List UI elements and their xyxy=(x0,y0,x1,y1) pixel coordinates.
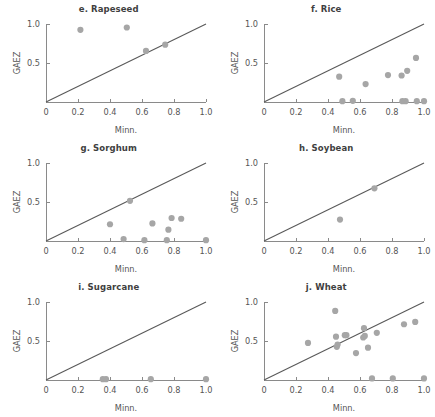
data-point xyxy=(148,376,154,382)
x-axis-tick-label: 1.0 xyxy=(417,385,430,395)
y-axis-tick-label: 1.0 xyxy=(27,19,40,29)
x-axis-tick-label: 0.2 xyxy=(289,107,302,117)
x-axis-tick-label: 0.6 xyxy=(353,385,366,395)
data-point xyxy=(339,98,345,104)
data-point xyxy=(420,98,426,104)
y-axis-tick-label: 0.5 xyxy=(244,197,257,207)
data-point xyxy=(336,216,342,222)
x-axis-title: Minn. xyxy=(332,264,354,274)
x-axis-tick-label: 0.4 xyxy=(321,107,334,117)
y-axis-title: GAEZ xyxy=(230,51,240,74)
scatter-plot: 00.20.40.60.81.00.51.0GAEZMinn. xyxy=(0,0,218,139)
data-point xyxy=(121,236,127,242)
data-point xyxy=(203,237,209,243)
data-point xyxy=(352,350,358,356)
x-axis-tick-label: 1.0 xyxy=(199,246,212,256)
x-axis-tick-label: 1.0 xyxy=(199,385,212,395)
data-point xyxy=(360,325,366,331)
data-point xyxy=(143,48,149,54)
data-point xyxy=(404,68,410,74)
data-point xyxy=(364,345,370,351)
x-axis-tick-label: 0 xyxy=(261,107,266,117)
data-point xyxy=(361,333,367,339)
data-point xyxy=(304,340,310,346)
y-axis-tick-label: 1.0 xyxy=(244,19,257,29)
x-axis-tick-label: 0.8 xyxy=(167,385,180,395)
y-axis-tick-label: 1.0 xyxy=(244,297,257,307)
x-axis-tick-label: 0.8 xyxy=(385,107,398,117)
x-axis-tick-label: 1.0 xyxy=(417,246,430,256)
data-point xyxy=(343,332,349,338)
data-point xyxy=(412,319,418,325)
x-axis-tick-label: 0.4 xyxy=(103,107,116,117)
scatter-plot: 00.20.40.60.81.00.51.0GAEZMinn. xyxy=(218,0,435,139)
data-point xyxy=(334,341,340,347)
chart-panel: f. Rice00.20.40.60.81.00.51.0GAEZMinn. xyxy=(218,0,435,139)
data-point xyxy=(371,185,377,191)
data-point xyxy=(384,72,390,78)
x-axis-tick-label: 0.2 xyxy=(289,385,302,395)
y-axis-title: GAEZ xyxy=(230,329,240,352)
x-axis-title: Minn. xyxy=(115,264,137,274)
data-point xyxy=(413,98,419,104)
scatter-plot: 00.20.40.60.81.00.51.0GAEZMinn. xyxy=(0,278,218,417)
x-axis-tick-label: 0.8 xyxy=(385,246,398,256)
chart-panel: j. Wheat00.20.40.60.81.00.51.0GAEZMinn. xyxy=(218,278,435,417)
x-axis-tick-label: 0.4 xyxy=(321,385,334,395)
data-point xyxy=(412,55,418,61)
scatter-plot: 00.20.40.60.81.00.51.0GAEZMinn. xyxy=(218,139,435,278)
chart-panel: e. Rapeseed00.20.40.60.81.00.51.0GAEZMin… xyxy=(0,0,218,139)
data-point xyxy=(178,216,184,222)
identity-reference-line xyxy=(264,302,424,380)
scatter-panel-grid: e. Rapeseed00.20.40.60.81.00.51.0GAEZMin… xyxy=(0,0,435,417)
y-axis-title: GAEZ xyxy=(230,190,240,213)
identity-reference-line xyxy=(46,24,206,102)
data-point xyxy=(164,237,170,243)
data-point xyxy=(400,321,406,327)
x-axis-tick-label: 1.0 xyxy=(417,107,430,117)
x-axis-tick-label: 0.8 xyxy=(167,246,180,256)
data-point xyxy=(165,227,171,233)
x-axis-tick-label: 0.4 xyxy=(103,385,116,395)
data-point xyxy=(332,334,338,340)
data-point xyxy=(389,375,395,381)
scatter-plot: 00.20.40.60.81.00.51.0GAEZMinn. xyxy=(218,278,435,417)
x-axis-tick-label: 1.0 xyxy=(199,107,212,117)
x-axis-tick-label: 0.6 xyxy=(353,107,366,117)
data-point xyxy=(336,74,342,80)
x-axis-tick-label: 0.4 xyxy=(321,246,334,256)
x-axis-title: Minn. xyxy=(115,403,137,413)
x-axis-tick-label: 0 xyxy=(261,246,266,256)
data-point xyxy=(362,81,368,87)
data-point xyxy=(149,220,155,226)
scatter-plot: 00.20.40.60.81.00.51.0GAEZMinn. xyxy=(0,139,218,278)
chart-panel: g. Sorghum00.20.40.60.81.00.51.0GAEZMinn… xyxy=(0,139,218,278)
y-axis-tick-label: 0.5 xyxy=(244,58,257,68)
data-point xyxy=(162,42,168,48)
data-point xyxy=(373,330,379,336)
x-axis-tick-label: 0.6 xyxy=(353,246,366,256)
data-point xyxy=(127,198,133,204)
x-axis-tick-label: 0.2 xyxy=(71,107,84,117)
y-axis-title: GAEZ xyxy=(12,190,22,213)
x-axis-tick-label: 0.2 xyxy=(71,246,84,256)
data-point xyxy=(349,98,355,104)
chart-panel: i. Sugarcane00.20.40.60.81.00.51.0GAEZMi… xyxy=(0,278,218,417)
x-axis-title: Minn. xyxy=(115,125,137,135)
identity-reference-line xyxy=(264,24,424,102)
identity-reference-line xyxy=(46,163,206,241)
x-axis-tick-label: 0.2 xyxy=(71,385,84,395)
y-axis-tick-label: 0.5 xyxy=(27,58,40,68)
y-axis-tick-label: 0.5 xyxy=(244,336,257,346)
y-axis-tick-label: 1.0 xyxy=(27,158,40,168)
y-axis-title: GAEZ xyxy=(12,51,22,74)
y-axis-title: GAEZ xyxy=(12,329,22,352)
data-point xyxy=(141,237,147,243)
x-axis-tick-label: 0 xyxy=(43,107,48,117)
x-axis-tick-label: 0.6 xyxy=(135,385,148,395)
data-point xyxy=(103,376,109,382)
data-point xyxy=(398,72,404,78)
x-axis-tick-label: 0.2 xyxy=(289,246,302,256)
x-axis-tick-label: 0.8 xyxy=(167,107,180,117)
data-point xyxy=(169,215,175,221)
